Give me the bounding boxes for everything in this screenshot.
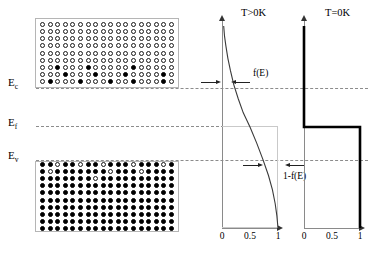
- hole-dot: [131, 72, 136, 77]
- electron-dot: [108, 212, 113, 217]
- hole-dot: [86, 22, 91, 27]
- electron-dot: [139, 162, 144, 167]
- electron-dot: [154, 176, 159, 181]
- electron-dot: [146, 219, 151, 224]
- electron-dot: [93, 198, 98, 203]
- energy-label-ef: Ef: [8, 117, 17, 130]
- annotation-arrow-f-left-line: [201, 82, 217, 83]
- electron-dot: [161, 183, 166, 188]
- electron-dot: [55, 219, 60, 224]
- electron-dot: [101, 169, 106, 174]
- electron-dot: [116, 226, 121, 231]
- electron-dot: [101, 205, 106, 210]
- hole-dot: [101, 72, 106, 77]
- electron-dot: [70, 198, 75, 203]
- electron-dot: [78, 169, 83, 174]
- x-tick-05-left-chart: 0.5: [242, 231, 258, 241]
- hole-dot: [55, 79, 60, 84]
- electron-dot: [116, 190, 121, 195]
- x-tick-05-right-chart: 0.5: [324, 231, 340, 241]
- electron-dot: [108, 205, 113, 210]
- hole-dot: [40, 29, 45, 34]
- hole-dot: [93, 29, 98, 34]
- hole-dot: [146, 51, 151, 56]
- electron-dot: [48, 176, 53, 181]
- hole-dot: [86, 29, 91, 34]
- hole-dot: [40, 51, 45, 56]
- hole-dot: [86, 43, 91, 48]
- electron-dot: [86, 226, 91, 231]
- hole-dot: [161, 29, 166, 34]
- hole-dot: [108, 72, 113, 77]
- electron-dot: [48, 212, 53, 217]
- hole-dot: [108, 36, 113, 41]
- hole-dot: [48, 22, 53, 27]
- electron-dot: [101, 219, 106, 224]
- electron-dot: [48, 198, 53, 203]
- electron-dot: [70, 162, 75, 167]
- hole-dot: [139, 65, 144, 70]
- electron-dot: [108, 176, 113, 181]
- annotation-label-one-minus-f-of-e: 1-f(E): [283, 171, 306, 181]
- hole-dot: [123, 51, 128, 56]
- hole-dot: [93, 65, 98, 70]
- conduction-band-dot-grid: [36, 19, 178, 87]
- electron-dot: [116, 198, 121, 203]
- annotation-arrowhead-1mf-left: [285, 163, 290, 167]
- electron-dot: [78, 183, 83, 188]
- electron-dot: [108, 226, 113, 231]
- electron-dot: [48, 162, 53, 167]
- hole-dot: [70, 29, 75, 34]
- energy-label-ef-text: E: [8, 116, 15, 128]
- hole-dot: [63, 43, 68, 48]
- energy-label-ec: Ec: [8, 77, 18, 90]
- hole-dot: [169, 51, 174, 56]
- hole-dot: [48, 29, 53, 34]
- electron-dot: [101, 190, 106, 195]
- electron-dot: [55, 205, 60, 210]
- electron-dot: [123, 226, 128, 231]
- hole-dot: [108, 43, 113, 48]
- electron-dot: [86, 169, 91, 174]
- electron-dot: [161, 176, 166, 181]
- hole-dot: [86, 51, 91, 56]
- hole-dot: [78, 29, 83, 34]
- hole-dot: [169, 22, 174, 27]
- electron-dot: [40, 226, 45, 231]
- electron-dot: [169, 219, 174, 224]
- hole-dot: [131, 22, 136, 27]
- electron-dot: [123, 176, 128, 181]
- electron-dot: [169, 176, 174, 181]
- hole-dot: [55, 22, 60, 27]
- electron-dot: [63, 198, 68, 203]
- electron-dot: [116, 176, 121, 181]
- electron-dot: [169, 162, 174, 167]
- hole-dot: [154, 22, 159, 27]
- electron-dot: [63, 162, 68, 167]
- figure-canvas: Ec Ef Ev T>0K 0 0.5 1 f(E) 1-f(E) T=0K 0…: [0, 0, 380, 258]
- hole-dot: [139, 51, 144, 56]
- electron-dot: [93, 205, 98, 210]
- hole-dot: [93, 51, 98, 56]
- electron-dot: [123, 190, 128, 195]
- electron-dot: [108, 183, 113, 188]
- electron-dot: [55, 198, 60, 203]
- electron-dot: [40, 212, 45, 217]
- hole-dot: [131, 58, 136, 63]
- electron-dot: [131, 226, 136, 231]
- electron-dot: [63, 72, 68, 77]
- hole-dot: [40, 43, 45, 48]
- hole-dot: [63, 22, 68, 27]
- hole-dot: [63, 36, 68, 41]
- hole-dot: [161, 58, 166, 63]
- valence-band-dot-grid: [36, 162, 178, 231]
- hole-dot: [116, 72, 121, 77]
- electron-dot: [86, 219, 91, 224]
- electron-dot: [161, 212, 166, 217]
- hole-dot: [146, 22, 151, 27]
- conduction-band-box: [35, 18, 179, 88]
- hole-dot: [101, 58, 106, 63]
- electron-dot: [48, 183, 53, 188]
- electron-dot: [70, 219, 75, 224]
- electron-dot: [70, 183, 75, 188]
